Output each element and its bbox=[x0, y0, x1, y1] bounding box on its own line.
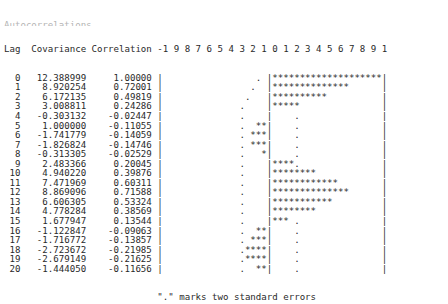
footnote: "." marks two standard errors bbox=[4, 293, 448, 303]
table-header: Lag Covariance Correlation -1 9 8 7 6 5 … bbox=[4, 45, 448, 55]
autocorrelation-output: Autocorrelations Lag Covariance Correlat… bbox=[0, 0, 448, 226]
table-body: 0 12.388999 1.00000 | . |***************… bbox=[4, 74, 448, 274]
header-line: Lag Covariance Correlation -1 9 8 7 6 5 … bbox=[4, 44, 387, 54]
footnote-text: "." marks two standard errors bbox=[4, 292, 316, 302]
table-row: 20 -1.444050 -0.11656 | . **| . | bbox=[4, 265, 448, 275]
clipped-title: Autocorrelations bbox=[4, 21, 448, 26]
